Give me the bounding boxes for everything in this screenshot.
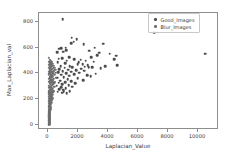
data-point — [61, 18, 64, 21]
data-point — [104, 65, 107, 68]
data-point — [57, 90, 60, 93]
data-point — [80, 68, 83, 71]
y-axis-tick — [35, 47, 38, 48]
data-point — [94, 72, 97, 75]
data-point — [68, 90, 71, 93]
x-axis-tick-label: 0 — [45, 133, 48, 139]
x-axis-tick — [137, 129, 138, 132]
data-point — [70, 80, 73, 83]
legend-label: Blur_Images — [161, 24, 192, 30]
data-point — [61, 57, 64, 60]
x-axis-tick — [167, 129, 168, 132]
x-axis-tick — [197, 129, 198, 132]
data-point — [93, 46, 96, 49]
data-point — [102, 43, 105, 46]
y-axis-tick — [35, 98, 38, 99]
x-axis-title: Laplacian_Value — [106, 143, 151, 149]
data-point — [91, 66, 94, 69]
x-axis-tick-label: 4000 — [100, 133, 113, 139]
data-point — [71, 85, 74, 88]
data-point — [63, 76, 66, 79]
x-axis-tick — [107, 129, 108, 132]
y-axis-tick-label: 800 — [23, 18, 33, 24]
data-point — [63, 90, 66, 93]
data-point — [55, 84, 58, 87]
y-axis-tick-label: 200 — [23, 95, 33, 101]
data-point — [58, 47, 61, 50]
data-point — [84, 65, 87, 68]
data-point — [96, 54, 99, 57]
data-point — [82, 43, 85, 46]
data-point — [88, 49, 91, 52]
data-point — [88, 66, 91, 69]
y-axis-tick — [35, 72, 38, 73]
data-point — [116, 64, 119, 67]
data-point — [204, 53, 207, 56]
y-axis-tick — [35, 21, 38, 22]
data-point — [71, 66, 74, 69]
data-point — [63, 66, 66, 69]
data-point — [64, 81, 67, 84]
x-axis-tick-label: 10000 — [189, 133, 206, 139]
data-point — [76, 77, 79, 80]
data-point — [65, 49, 68, 52]
x-axis-tick-label: 6000 — [130, 133, 143, 139]
y-axis-title: Max_Laplacian_val — [6, 44, 12, 96]
data-point — [109, 53, 112, 56]
data-point — [56, 61, 59, 64]
data-point — [57, 71, 60, 74]
data-point — [67, 68, 70, 71]
y-axis-tick-label: 400 — [23, 69, 33, 75]
data-point — [62, 51, 65, 54]
x-axis-tick-label: 8000 — [160, 133, 173, 139]
data-point — [70, 42, 73, 45]
legend-item-good-images[interactable]: Good_Images — [152, 16, 195, 23]
data-point — [86, 74, 89, 77]
y-axis-tick-label: 0 — [30, 121, 33, 127]
data-point — [70, 36, 73, 39]
data-point — [56, 51, 59, 54]
chart-legend[interactable]: Good_Images Blur_Images — [148, 13, 200, 33]
scatter-plot-figure: 02000400060008000100000200400600800 Lapl… — [0, 0, 230, 162]
data-point — [83, 69, 86, 72]
data-point — [73, 58, 76, 61]
data-point — [66, 92, 69, 95]
legend-marker-icon — [154, 18, 157, 21]
x-axis-tick-label: 2000 — [70, 133, 83, 139]
data-point — [90, 75, 93, 78]
legend-item-blur-images[interactable]: Blur_Images — [152, 23, 195, 30]
data-point — [75, 38, 78, 41]
data-point — [57, 57, 60, 60]
data-point — [67, 84, 70, 87]
data-point — [76, 63, 79, 66]
data-point — [68, 56, 71, 59]
data-point — [56, 77, 59, 80]
data-point — [90, 56, 93, 59]
data-point — [100, 67, 103, 70]
data-point — [74, 82, 77, 85]
data-point — [66, 78, 69, 81]
x-axis-tick — [47, 129, 48, 132]
data-point — [78, 71, 81, 74]
y-axis-tick — [35, 124, 38, 125]
x-axis-tick — [77, 129, 78, 132]
data-point — [73, 73, 76, 76]
data-point — [64, 62, 67, 65]
data-point — [113, 58, 116, 61]
data-point — [85, 59, 88, 62]
legend-label: Good_Images — [161, 17, 195, 23]
data-point — [72, 40, 75, 43]
data-point — [68, 74, 71, 77]
y-axis-tick-label: 600 — [23, 44, 33, 50]
data-point — [115, 54, 118, 57]
legend-marker-icon — [154, 25, 157, 28]
data-point — [82, 79, 85, 82]
data-point — [61, 70, 64, 73]
data-point — [93, 60, 96, 63]
